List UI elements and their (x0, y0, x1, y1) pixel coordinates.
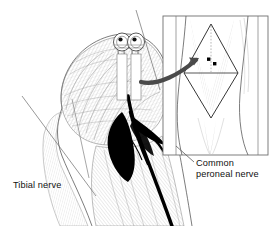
popliteal-fossa-illustration (0, 0, 280, 226)
peroneal-label-line2: peroneal nerve (196, 169, 259, 179)
tibial-nerve-label: Tibial nerve (13, 180, 61, 191)
surface-landmark-inset (163, 16, 268, 156)
common-peroneal-nerve-label: Commonperoneal nerve (196, 158, 259, 181)
needle-hub-lateral (128, 33, 145, 51)
needle-point-1 (207, 58, 210, 61)
needle-point-2 (213, 62, 216, 65)
peroneal-label-line1: Common (196, 158, 234, 168)
